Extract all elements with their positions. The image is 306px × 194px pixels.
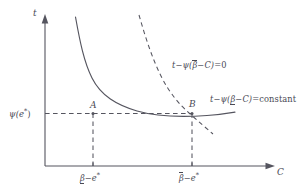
y-tick-label-psi-estar: ψ(e*)	[9, 108, 31, 118]
x-axis-label: C	[277, 168, 284, 177]
x-tick-label-beta-lower: β−e*	[80, 172, 100, 182]
y-tick-psi-symbol: ψ(	[9, 109, 19, 119]
curve-label-zero: t−ψ(β−C)=0	[172, 61, 227, 69]
y-tick-close-paren: )	[27, 109, 30, 119]
x-tick-1-rest: −e	[85, 173, 97, 183]
x-tick-label-beta-bar: β−e*	[179, 172, 199, 182]
x-tick-2-beta: β	[179, 174, 184, 182]
y-axis-arrowhead	[42, 14, 49, 24]
x-axis-arrowhead	[266, 163, 276, 170]
curve-label-constant: t−ψ(β−C)=constant	[210, 95, 296, 103]
x-tick-2-star: *	[196, 171, 199, 179]
curve-label-constant-prefix: t−ψ(	[210, 94, 230, 104]
y-axis-label: t	[33, 9, 37, 18]
curve-label-zero-value: 0	[221, 60, 226, 70]
x-tick-1-star: *	[97, 171, 100, 179]
x-tick-1-beta: β	[80, 174, 85, 182]
point-label-a: A	[90, 101, 97, 110]
economics-figure: t C ψ(e*) β−e* β−e* A B t−ψ(β−C)=0 t−ψ(β…	[0, 0, 306, 194]
curve-label-constant-middle: −C)=	[235, 94, 259, 104]
curve-label-zero-prefix: t−ψ(	[172, 60, 192, 70]
curve-label-zero-middle: −C)=	[197, 60, 221, 70]
point-marker-b	[191, 112, 194, 115]
point-label-b: B	[189, 100, 196, 109]
curve-label-zero-beta: β	[192, 61, 197, 69]
x-tick-2-rest: −e	[184, 173, 196, 183]
point-marker-a	[92, 112, 95, 115]
curve-label-constant-beta: β	[230, 95, 235, 103]
curve-label-constant-value: constant	[259, 94, 296, 104]
